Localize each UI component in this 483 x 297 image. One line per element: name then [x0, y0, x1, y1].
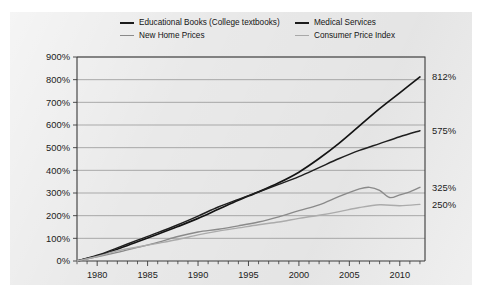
series-end-label-educational-books: 812% [432, 71, 456, 82]
y-axis-label: 200% [46, 210, 70, 221]
series-end-label-new-home-prices: 325% [432, 182, 456, 193]
series-end-label-medical-services: 575% [432, 125, 456, 136]
y-axis-label: 400% [46, 165, 70, 176]
series-line-new-home-prices [77, 187, 420, 261]
y-axis-label: 100% [46, 233, 70, 244]
series-line-medical-services [77, 131, 420, 261]
axis-top-right [77, 57, 425, 261]
chart-x-axis-labels: 1980198519901995200020052010 [87, 270, 410, 280]
series-end-label-consumer-price-index: 250% [432, 199, 456, 210]
chart-screenshot: Educational Books (College textbooks) Me… [0, 0, 483, 297]
chart-series-group [77, 77, 420, 261]
chart-axes [77, 57, 425, 261]
x-axis-label: 1985 [137, 270, 157, 280]
x-axis-label: 2000 [289, 270, 309, 280]
y-axis-label: 600% [46, 119, 70, 130]
chart-x-axis-ticks [77, 261, 420, 266]
y-axis-label: 900% [46, 51, 70, 62]
y-axis-label: 300% [46, 187, 70, 198]
x-axis-label: 2005 [339, 270, 359, 280]
chart-y-axis-labels: 0%100%200%300%400%500%600%700%800%900% [46, 51, 70, 266]
chart-gridlines [73, 57, 425, 261]
y-axis-label: 0% [56, 255, 70, 266]
x-axis-label: 1990 [188, 270, 208, 280]
y-axis-label: 700% [46, 97, 70, 108]
y-axis-label: 500% [46, 142, 70, 153]
x-axis-label: 1980 [87, 270, 107, 280]
axis-left-bottom [77, 57, 425, 261]
x-axis-label: 2010 [390, 270, 410, 280]
y-axis-label: 800% [46, 74, 70, 85]
line-chart: 0%100%200%300%400%500%600%700%800%900% 1… [10, 12, 472, 285]
chart-end-labels: 812%575%325%250% [432, 71, 456, 209]
series-line-educational-books [77, 77, 420, 261]
series-line-consumer-price-index [77, 204, 420, 261]
chart-svg: 0%100%200%300%400%500%600%700%800%900% 1… [10, 12, 472, 285]
x-axis-label: 1995 [238, 270, 258, 280]
